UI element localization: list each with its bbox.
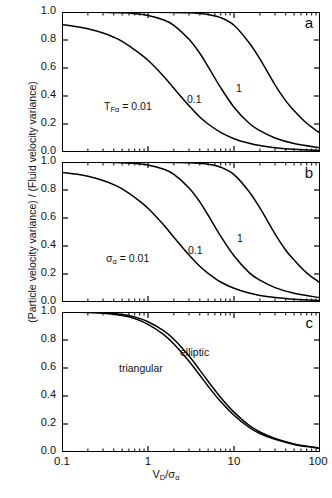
panel-c-ytick-0.0: 0.0 (18, 444, 56, 456)
x-axis-label-v: V (153, 468, 160, 480)
xtick-10: 10 (228, 455, 241, 467)
panel-b-y-ticks: 1.0 0.8 0.6 0.4 0.2 0.0 (62, 162, 320, 302)
panel-b-ytick-0.8: 0.8 (18, 182, 56, 194)
figure-container: (Particle velocity variance) / (Fluid ve… (0, 0, 332, 498)
panel-a-ytick-0.2: 0.2 (18, 116, 56, 128)
panel-a-y-ticks: 1.0 0.8 0.6 0.4 0.2 0.0 (62, 12, 320, 152)
xtick-1: 1 (145, 455, 151, 467)
panel-b: b σα = 0.01 0.1 1 1.0 0.8 0.6 0.4 0.2 0.… (62, 162, 320, 302)
panel-a-ytick-0.6: 0.6 (18, 60, 56, 72)
panel-c: c elliptic triangular 1.0 0.8 0.6 0.4 0.… (62, 312, 320, 452)
panel-c-ytick-0.2: 0.2 (18, 416, 56, 428)
panel-c-ytick-0.6: 0.6 (18, 360, 56, 372)
panel-c-ytick-0.8: 0.8 (18, 332, 56, 344)
panel-a: a TFα = 0.01 0.1 1 1.0 0.8 0.6 0.4 0.2 0… (62, 12, 320, 152)
panel-b-ytick-0.6: 0.6 (18, 210, 56, 222)
panel-a-ytick-0.4: 0.4 (18, 88, 56, 100)
panel-b-ytick-0.4: 0.4 (18, 238, 56, 250)
panel-b-ytick-1.0: 1.0 (18, 154, 56, 166)
panel-a-ytick-0.8: 0.8 (18, 32, 56, 44)
x-axis-label: VD/σα (0, 468, 332, 482)
xtick-100: 100 (308, 455, 327, 467)
x-axis-label-sub-alpha: α (175, 473, 179, 482)
x-axis-label-sigma: /σ (165, 468, 175, 480)
panel-a-ytick-1.0: 1.0 (18, 4, 56, 16)
panel-c-y-ticks: 1.0 0.8 0.6 0.4 0.2 0.0 (62, 312, 320, 452)
panel-c-ytick-1.0: 1.0 (18, 304, 56, 316)
xtick-0.1: 0.1 (54, 455, 70, 467)
panel-c-ytick-0.4: 0.4 (18, 388, 56, 400)
panel-b-ytick-0.2: 0.2 (18, 266, 56, 278)
